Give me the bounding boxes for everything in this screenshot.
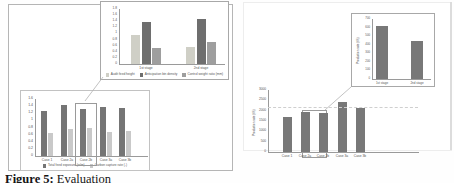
- page-edge-line: [450, 2, 452, 150]
- y-tick-label: 1: [21, 119, 33, 123]
- x-axis-label: Case 3a: [100, 158, 112, 162]
- y-tick-label: 300: [352, 52, 370, 56]
- bar: [142, 22, 151, 64]
- bar: [356, 108, 365, 152]
- legend-swatch: [140, 73, 144, 77]
- y-tick-label: 1.4: [101, 19, 117, 23]
- bar: [87, 128, 92, 156]
- x-axis-label: Case 2a: [61, 158, 73, 162]
- y-tick-label: 0.8: [101, 38, 117, 42]
- y-tick-label: 600: [352, 26, 370, 30]
- caption-label: Figure 5:: [5, 172, 54, 183]
- left-inset-legend: Audit feed heightAnticipation bin densit…: [101, 73, 228, 77]
- y-tick-label: 3000: [250, 88, 266, 92]
- y-axis-title: Production rate (t/h): [357, 37, 360, 64]
- left-inset-chart: Audit feed heightAnticipation bin densit…: [100, 1, 229, 80]
- legend-item: Anticipation bin density: [140, 73, 178, 77]
- x-axis-label: Case 3a: [336, 154, 348, 158]
- y-tick-label: 200: [352, 60, 370, 64]
- bar: [283, 117, 292, 152]
- bar: [68, 129, 73, 156]
- y-tick-label: 0.4: [101, 50, 117, 54]
- y-tick-label: 1.8: [101, 7, 117, 11]
- bar: [207, 42, 216, 64]
- legend-swatch: [43, 164, 47, 168]
- y-tick-label: 0: [352, 77, 370, 81]
- bar: [48, 133, 53, 156]
- bar: [319, 113, 328, 152]
- y-tick-label: 500: [250, 140, 266, 144]
- legend-swatch: [182, 73, 186, 77]
- left-main-chart: Total feed exposure (w/m)Carbon capture …: [20, 90, 150, 171]
- legend-label: Carbon capture rate (-): [95, 164, 127, 168]
- x-axis-label: Case 3b: [354, 154, 366, 158]
- legend-item: Audit feed height: [106, 73, 135, 77]
- bar: [376, 26, 388, 79]
- x-axis-label: 2nd stage: [410, 81, 423, 85]
- x-axis-label: Case 3b: [119, 158, 131, 162]
- x-axis-label: Case 1: [42, 158, 52, 162]
- x-axis-label: Case 2b: [80, 158, 92, 162]
- y-tick-label: 1.6: [21, 97, 33, 101]
- y-tick-label: 1.2: [21, 112, 33, 116]
- x-axis-label: Case 1: [282, 154, 292, 158]
- x-axis-label: 1st stage: [376, 81, 388, 85]
- y-tick-label: 1.2: [101, 26, 117, 30]
- y-tick-label: 0.8: [21, 126, 33, 130]
- x-axis-label: Case 2a: [299, 154, 311, 158]
- y-tick-label: 0.6: [101, 44, 117, 48]
- y-tick-label: 400: [352, 43, 370, 47]
- x-axis-label: Case 2b: [317, 154, 329, 158]
- highlight-box-left: [75, 103, 97, 166]
- legend-swatch: [106, 73, 110, 77]
- figure-caption: Figure 5: Evaluation: [5, 172, 240, 183]
- right-main-chart: 300025002000150010005000Case 1Case 2aCas…: [250, 88, 420, 172]
- y-tick-label: 0: [21, 154, 33, 158]
- bar: [131, 35, 140, 64]
- dashed-gridline: [268, 107, 418, 108]
- y-tick-label: 0: [250, 150, 266, 154]
- x-axis-label: 1st stage: [139, 66, 152, 70]
- legend-label: Anticipation bin density: [145, 73, 178, 77]
- bar: [152, 48, 161, 65]
- y-tick-label: 700: [352, 17, 370, 21]
- legend-item: Control weight ratio (mm): [182, 73, 223, 77]
- bar: [126, 131, 131, 156]
- legend-label: Audit feed height: [111, 73, 135, 77]
- y-tick-label: 500: [352, 34, 370, 38]
- bar: [338, 102, 347, 152]
- bar: [100, 107, 106, 156]
- y-tick-label: 100: [352, 69, 370, 73]
- bar: [41, 111, 47, 156]
- bar: [107, 132, 112, 156]
- right-inset-chart: 70060050040030020010001st stage2nd stage…: [351, 13, 435, 87]
- y-axis-title: Production rate (t/h): [253, 109, 256, 136]
- y-tick-label: 0.4: [21, 140, 33, 144]
- bar: [186, 47, 195, 64]
- x-axis-label: 2nd stage: [194, 66, 208, 70]
- bar: [119, 108, 125, 156]
- y-tick-label: 1: [101, 32, 117, 36]
- y-tick-label: 2500: [250, 99, 266, 103]
- y-tick-label: 1.6: [101, 13, 117, 17]
- page: Total feed exposure (w/m)Carbon capture …: [0, 0, 454, 183]
- y-tick-label: 1.4: [21, 104, 33, 108]
- bar: [80, 109, 86, 156]
- caption-text: Evaluation: [54, 172, 111, 183]
- y-tick-label: 0.6: [21, 133, 33, 137]
- y-tick-label: 0: [101, 62, 117, 66]
- bar: [411, 41, 423, 79]
- y-tick-label: 0.2: [101, 56, 117, 60]
- bar: [197, 19, 206, 64]
- legend-label: Control weight ratio (mm): [187, 73, 223, 77]
- y-tick-label: 0.2: [21, 147, 33, 151]
- bar: [301, 112, 310, 152]
- bar: [61, 105, 67, 156]
